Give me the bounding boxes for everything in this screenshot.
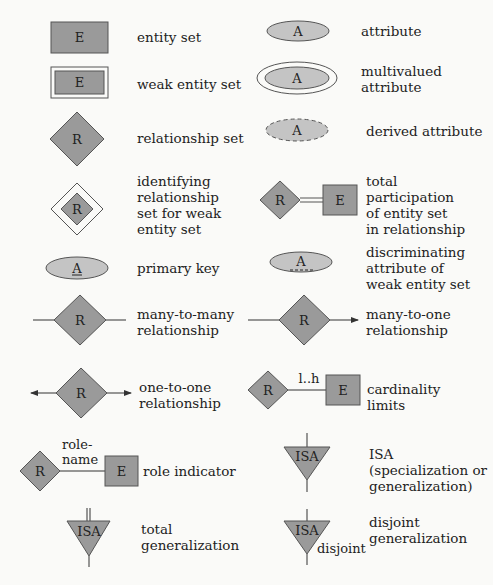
entity-symbol: E <box>338 383 348 398</box>
label-discriminating-attribute: discriminating attribute of weak entity … <box>366 244 470 292</box>
entity-symbol: E <box>75 30 85 45</box>
isa-symbol: ISA <box>77 524 101 539</box>
weak-entity-set-shape: E <box>51 67 108 98</box>
label-total-generalization: total generalization <box>141 521 239 553</box>
isa-symbol: ISA <box>295 449 319 464</box>
relationship-symbol: R <box>72 202 83 217</box>
label-primary-key: primary key <box>137 260 219 276</box>
relationship-symbol: R <box>299 313 310 328</box>
label-many-to-one: many-to-one relationship <box>366 306 451 338</box>
label-cardinality-limits: cardinality limits <box>367 381 440 413</box>
total-generalization-shape: ISA <box>67 508 110 567</box>
relationship-symbol: R <box>263 383 274 398</box>
label-weak-entity-set: weak entity set <box>137 76 241 92</box>
disjoint-label: disjoint <box>317 541 367 556</box>
label-identifying-relationship: identifying relationship set for weak en… <box>137 173 221 237</box>
attribute-symbol: A <box>291 123 302 138</box>
attribute-symbol: A <box>291 71 302 86</box>
isa-symbol: ISA <box>295 523 319 538</box>
attribute-symbol: A <box>71 261 82 276</box>
entity-symbol: E <box>75 75 85 90</box>
label-role-indicator: role indicator <box>143 463 236 479</box>
role-name-label: role- name <box>62 437 98 467</box>
total-participation-shape: R E <box>260 181 357 219</box>
entity-symbol: E <box>335 193 345 208</box>
label-derived-attribute: derived attribute <box>366 123 482 139</box>
entity-symbol: E <box>117 464 127 479</box>
many-to-one-shape: R <box>248 295 358 345</box>
relationship-symbol: R <box>72 132 83 147</box>
cardinality-limits-shape: R E l..h <box>248 371 360 409</box>
one-to-one-shape: R <box>31 368 131 418</box>
relationship-symbol: R <box>275 193 286 208</box>
label-attribute: attribute <box>361 23 421 39</box>
discriminating-attribute-shape: A <box>270 252 332 272</box>
isa-shape: ISA <box>284 433 330 492</box>
many-to-many-shape: R <box>33 295 126 345</box>
primary-key-shape: A <box>46 257 108 279</box>
label-isa: ISA (specialization or generalization) <box>369 446 487 494</box>
attribute-symbol: A <box>295 254 306 269</box>
label-relationship-set: relationship set <box>137 130 244 146</box>
relationship-set-shape: R <box>50 112 104 166</box>
cardinality-label: l..h <box>299 371 320 386</box>
attribute-symbol: A <box>292 24 303 39</box>
label-entity-set: entity set <box>137 29 201 45</box>
label-one-to-one: one-to-one relationship <box>139 379 221 411</box>
entity-set-shape: E <box>51 22 108 53</box>
attribute-shape: A <box>267 21 329 41</box>
label-disjoint-generalization: disjoint generalization <box>369 514 467 546</box>
label-many-to-many: many-to-many relationship <box>137 306 234 338</box>
disjoint-generalization-shape: ISA disjoint <box>284 509 367 565</box>
multivalued-attribute-shape: A <box>257 62 337 94</box>
label-total-participation: total participation of entity set in rel… <box>366 173 465 237</box>
relationship-symbol: R <box>35 464 46 479</box>
identifying-relationship-shape: R <box>51 183 103 235</box>
derived-attribute-shape: A <box>266 119 328 141</box>
relationship-symbol: R <box>76 386 87 401</box>
label-multivalued-attribute: multivalued attribute <box>361 63 442 95</box>
relationship-symbol: R <box>75 313 86 328</box>
